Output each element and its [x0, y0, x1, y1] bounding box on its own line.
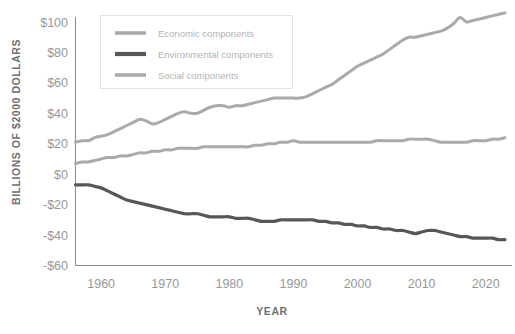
- x-tick-label: 2000: [344, 277, 372, 291]
- x-axis-tick-labels: 1960197019801990200020102020: [87, 277, 499, 291]
- x-tick-label: 1980: [215, 277, 243, 291]
- y-tick-label: $40: [47, 107, 68, 121]
- y-tick-label: $0: [54, 168, 68, 182]
- series-line-environmental-components: [76, 185, 506, 240]
- x-tick-label: 1990: [280, 277, 308, 291]
- x-tick-label: 1960: [87, 277, 115, 291]
- y-axis-title: BILLIONS OF $2000 DOLLARS: [10, 39, 22, 205]
- x-tick-label: 1970: [151, 277, 179, 291]
- y-axis-tick-labels: $100$80$60$40$20$0-$20-$40-$60: [40, 16, 68, 274]
- x-tick-label: 2010: [408, 277, 436, 291]
- legend-label: Environmental components: [158, 49, 273, 60]
- y-tick-label: -$20: [43, 198, 68, 212]
- line-chart: $100$80$60$40$20$0-$20-$40-$60 196019701…: [0, 0, 515, 334]
- legend-label: Economic components: [158, 28, 254, 39]
- series-line-social-components: [76, 138, 506, 164]
- y-tick-label: $20: [47, 137, 68, 151]
- chart-canvas: $100$80$60$40$20$0-$20-$40-$60 196019701…: [0, 0, 515, 334]
- y-tick-label: $60: [47, 76, 68, 90]
- y-tick-label: $80: [47, 46, 68, 60]
- y-tick-label: $100: [40, 16, 68, 30]
- y-tick-label: -$60: [43, 259, 68, 273]
- legend-label: Social components: [158, 70, 239, 81]
- x-axis-title: YEAR: [256, 305, 287, 317]
- y-tick-label: -$40: [43, 229, 68, 243]
- legend: Economic componentsEnvironmental compone…: [101, 16, 293, 89]
- x-tick-label: 2020: [472, 277, 500, 291]
